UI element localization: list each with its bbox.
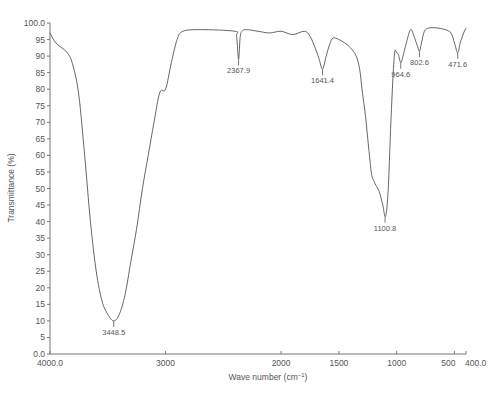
peak-label: 964.6	[391, 70, 410, 79]
x-tick-label: 500	[441, 358, 455, 368]
x-tick-label: 400.0	[465, 358, 487, 368]
x-axis-title: Wave number (cm−1)	[229, 372, 308, 382]
y-tick-label: 65	[36, 134, 46, 144]
peak-label: 471.6	[448, 60, 467, 69]
x-tick-label: 3000	[156, 358, 175, 368]
y-axis-ticks: 0.05101520253035404550556065707580859095…	[24, 18, 50, 359]
y-tick-label: 45	[36, 200, 46, 210]
ftir-spectrum-chart: 0.05101520253035404550556065707580859095…	[0, 0, 493, 399]
peak-label: 1100.8	[374, 224, 396, 233]
y-tick-label: 95	[36, 35, 46, 45]
y-tick-label: 90	[36, 51, 46, 61]
y-tick-label: 35	[36, 233, 46, 243]
peak-label: 802.6	[410, 58, 429, 67]
y-tick-label: 5	[40, 332, 45, 342]
y-tick-label: 15	[36, 299, 46, 309]
y-tick-label: 80	[36, 84, 46, 94]
peak-annotations: 3448.52367.91641.41100.8964.6802.6471.6	[102, 51, 467, 337]
y-tick-label: 25	[36, 266, 46, 276]
y-tick-label: 100.0	[24, 18, 46, 28]
y-tick-label: 20	[36, 283, 46, 293]
x-tick-label: 2000	[272, 358, 291, 368]
peak-label: 2367.9	[227, 66, 250, 75]
x-tick-label: 1500	[329, 358, 348, 368]
peak-label: 1641.4	[311, 76, 334, 85]
y-tick-label: 50	[36, 184, 46, 194]
y-tick-label: 75	[36, 101, 46, 111]
y-tick-label: 60	[36, 150, 46, 160]
y-tick-label: 70	[36, 117, 46, 127]
y-axis-title: Transmittance (%)	[6, 153, 16, 222]
y-tick-label: 40	[36, 217, 46, 227]
y-tick-label: 30	[36, 250, 46, 260]
x-tick-label: 4000.0	[37, 358, 63, 368]
y-tick-label: 85	[36, 68, 46, 78]
x-tick-label: 1000	[387, 358, 406, 368]
peak-label: 3448.5	[102, 328, 125, 337]
y-tick-label: 55	[36, 167, 46, 177]
y-tick-label: 10	[36, 316, 46, 326]
